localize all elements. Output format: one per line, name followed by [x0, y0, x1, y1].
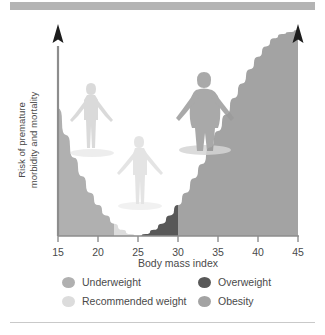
- figure-container: 15202530354045 Body mass index Risk of p…: [0, 0, 325, 335]
- legend-swatch-obesity-icon: [198, 296, 211, 307]
- bottom-divider: [10, 322, 315, 323]
- legend-item-overweight: Overweight: [198, 276, 271, 288]
- x-axis-title: Body mass index: [138, 257, 219, 269]
- silhouette-underweight: [70, 83, 114, 157]
- y-axis-arrowhead-icon: [53, 24, 64, 43]
- plot-area: 15202530354045 Body mass index Risk of p…: [0, 10, 325, 270]
- x-tick-label: 15: [52, 246, 64, 258]
- legend-label-overweight: Overweight: [218, 276, 271, 288]
- legend-item-recommended: Recommended weight: [62, 295, 186, 307]
- legend-item-obesity: Obesity: [198, 295, 254, 307]
- legend-row-2: Recommended weight Obesity: [0, 295, 325, 311]
- y-axis-title-line1: Risk of premature: [16, 102, 27, 178]
- legend-label-recommended: Recommended weight: [82, 295, 186, 307]
- legend-label-underweight: Underweight: [82, 276, 141, 288]
- legend-row-1: Underweight Overweight: [0, 276, 325, 292]
- y-axis-title-line2: morbidity and mortality: [28, 92, 39, 189]
- legend-swatch-recommended-icon: [62, 296, 75, 307]
- top-decoration-bar: [10, 2, 315, 10]
- chart-legend: Underweight Overweight Recommended weigh…: [0, 274, 325, 318]
- x-tick-label: 40: [252, 246, 264, 258]
- legend-label-obesity: Obesity: [218, 295, 254, 307]
- x-axis-ticks: [58, 236, 298, 242]
- legend-swatch-underweight-icon: [62, 277, 75, 288]
- x-tick-label: 45: [292, 246, 304, 258]
- legend-item-underweight: Underweight: [62, 276, 141, 288]
- silhouette-recommended: [117, 136, 163, 210]
- bmi-risk-chart: 15202530354045 Body mass index Risk of p…: [0, 10, 325, 270]
- x-tick-label: 20: [92, 246, 104, 258]
- legend-swatch-overweight-icon: [198, 277, 211, 288]
